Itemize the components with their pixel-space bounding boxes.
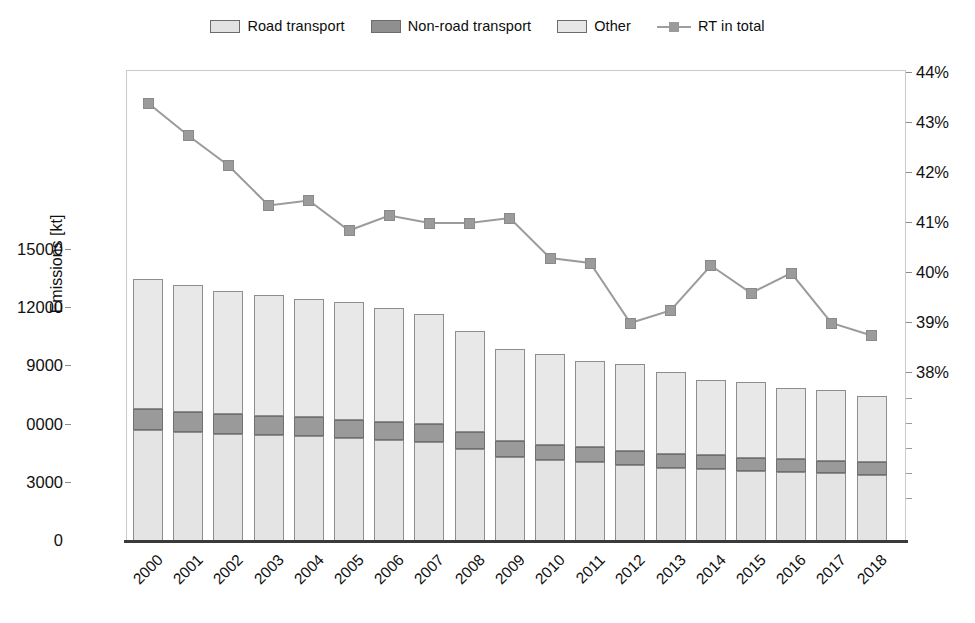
line-marker[interactable] (866, 330, 877, 341)
stacked-bar[interactable] (495, 349, 525, 541)
legend-item-rt-in-total[interactable]: RT in total (657, 18, 765, 34)
legend-line-marker-icon (657, 20, 691, 33)
bar-segment-other (857, 396, 887, 463)
line-marker[interactable] (464, 218, 475, 229)
line-marker[interactable] (625, 318, 636, 329)
bar-segment-other (173, 285, 203, 412)
legend-item-other[interactable]: Other (557, 18, 631, 34)
stacked-bar[interactable] (133, 279, 163, 541)
legend-label-other: Other (594, 18, 631, 34)
legend-item-non-road-transport[interactable]: Non-road transport (371, 18, 532, 34)
y-axis-right-minor-tick (906, 473, 912, 474)
stacked-bar[interactable] (455, 331, 485, 541)
stacked-bar[interactable] (575, 361, 605, 541)
bar-segment-non-road-transport (213, 414, 243, 434)
bar-segment-non-road-transport (816, 461, 846, 473)
bar-segment-other (294, 299, 324, 418)
bar-segment-non-road-transport (254, 416, 284, 435)
line-marker[interactable] (545, 253, 556, 264)
bar-segment-road-transport (334, 438, 364, 541)
line-marker[interactable] (504, 213, 515, 224)
legend-swatch-nonroad-icon (371, 20, 401, 33)
stacked-bar[interactable] (656, 372, 686, 541)
line-marker[interactable] (344, 225, 355, 236)
legend-label-non-road-transport: Non-road transport (408, 18, 532, 34)
bar-segment-road-transport (374, 440, 404, 540)
bar-segment-non-road-transport (334, 420, 364, 439)
line-marker[interactable] (705, 260, 716, 271)
bar-segment-other (213, 291, 243, 414)
line-marker[interactable] (786, 268, 797, 279)
y-axis-right-tick-label: 42% (916, 163, 975, 182)
chart-container: Road transport Non-road transport Other … (0, 0, 975, 623)
stacked-bar[interactable] (414, 314, 444, 541)
bar-segment-road-transport (294, 436, 324, 541)
y-axis-tick-label: 3000 (0, 473, 63, 492)
stacked-bar[interactable] (857, 396, 887, 542)
stacked-bar[interactable] (334, 302, 364, 541)
bar-segment-non-road-transport (294, 417, 324, 436)
line-marker[interactable] (183, 130, 194, 141)
line-marker[interactable] (303, 195, 314, 206)
line-marker[interactable] (143, 98, 154, 109)
stacked-bar[interactable] (615, 364, 645, 541)
line-marker[interactable] (826, 318, 837, 329)
bar-segment-road-transport (213, 434, 243, 541)
line-marker[interactable] (223, 160, 234, 171)
bar-segment-road-transport (816, 473, 846, 541)
bar-segment-road-transport (535, 460, 565, 541)
line-marker[interactable] (665, 305, 676, 316)
bar-segment-other (455, 331, 485, 433)
y-axis-right-tick-label: 44% (916, 63, 975, 82)
bar-segment-road-transport (736, 471, 766, 541)
bar-segment-road-transport (615, 465, 645, 541)
stacked-bar[interactable] (535, 354, 565, 541)
line-marker[interactable] (746, 288, 757, 299)
bar-segment-road-transport (495, 457, 525, 541)
legend-swatch-other-icon (557, 20, 587, 33)
bar-segment-non-road-transport (173, 412, 203, 432)
line-marker[interactable] (384, 210, 395, 221)
bar-segment-road-transport (575, 462, 605, 541)
stacked-bar[interactable] (776, 388, 806, 541)
line-marker[interactable] (585, 258, 596, 269)
bar-segment-other (133, 279, 163, 409)
bar-segment-non-road-transport (374, 422, 404, 440)
bar-segment-other (615, 364, 645, 451)
stacked-bar[interactable] (736, 382, 766, 541)
legend-label-rt-in-total: RT in total (698, 18, 765, 34)
bar-segment-road-transport (414, 442, 444, 541)
line-marker[interactable] (424, 218, 435, 229)
bar-segment-non-road-transport (857, 462, 887, 474)
bar-segment-other (334, 302, 364, 419)
y-axis-tick-label: 15000 (0, 240, 63, 259)
legend-item-road-transport[interactable]: Road transport (210, 18, 344, 34)
y-axis-right-minor-tick (906, 398, 912, 399)
y-axis-right-tick-label: 38% (916, 363, 975, 382)
stacked-bar[interactable] (816, 390, 846, 541)
stacked-bar[interactable] (254, 295, 284, 541)
bar-segment-non-road-transport (696, 455, 726, 468)
y-axis-tick-label: 0 (0, 531, 63, 550)
bar-segment-non-road-transport (495, 441, 525, 457)
chart-legend: Road transport Non-road transport Other … (0, 18, 975, 34)
y-axis-tick-label: 9000 (0, 356, 63, 375)
stacked-bar[interactable] (374, 308, 404, 541)
stacked-bar[interactable] (696, 380, 726, 541)
y-axis-right-minor-tick (906, 498, 912, 499)
y-axis-tick-label: 0000 (0, 415, 63, 434)
stacked-bar[interactable] (173, 285, 203, 541)
stacked-bar[interactable] (294, 299, 324, 542)
bar-segment-road-transport (656, 468, 686, 541)
bar-segment-non-road-transport (535, 445, 565, 460)
y-axis-right-minor-tick (906, 423, 912, 424)
bar-segment-other (535, 354, 565, 446)
legend-label-road-transport: Road transport (247, 18, 344, 34)
stacked-bar[interactable] (213, 291, 243, 541)
bar-segment-road-transport (254, 435, 284, 541)
x-axis-baseline (124, 540, 908, 543)
bar-segment-other (816, 390, 846, 461)
line-marker[interactable] (263, 200, 274, 211)
y-axis-title: Emissions [kt] (48, 164, 66, 364)
bar-segment-road-transport (696, 469, 726, 541)
